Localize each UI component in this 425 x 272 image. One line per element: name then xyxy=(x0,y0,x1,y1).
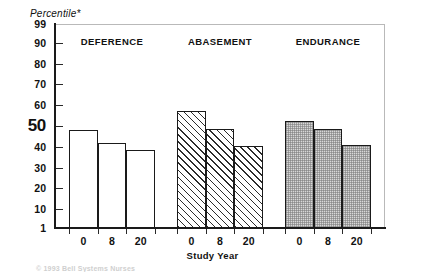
bar xyxy=(126,150,155,228)
x-axis-tick xyxy=(177,229,178,234)
x-axis-label: 8 xyxy=(207,236,233,247)
bar xyxy=(314,129,343,228)
bar xyxy=(69,130,98,228)
x-axis-label: 0 xyxy=(286,236,312,247)
x-axis-label: 20 xyxy=(344,236,370,247)
x-axis-tick xyxy=(314,229,315,234)
y-axis-label: 40 xyxy=(0,142,46,153)
x-axis-tick xyxy=(342,229,343,234)
y-axis-label: 50 xyxy=(0,117,46,134)
x-axis-tick xyxy=(234,229,235,234)
y-axis-label: 80 xyxy=(0,59,46,70)
bar xyxy=(285,121,314,228)
y-axis-label: 70 xyxy=(0,79,46,90)
x-axis-tick xyxy=(69,229,70,234)
x-axis-label: 0 xyxy=(178,236,204,247)
x-axis-tick xyxy=(206,229,207,234)
x-axis-title: Study Year xyxy=(0,250,425,261)
x-axis-label: 20 xyxy=(236,236,262,247)
x-axis-tick xyxy=(371,229,372,234)
x-axis-tick xyxy=(263,229,264,234)
x-axis-label: 20 xyxy=(128,236,154,247)
x-axis-label: 8 xyxy=(99,236,125,247)
y-axis-label: 10 xyxy=(0,204,46,215)
x-axis-tick xyxy=(126,229,127,234)
x-axis-tick xyxy=(285,229,286,234)
x-axis-tick xyxy=(155,229,156,234)
bar xyxy=(206,129,235,228)
y-axis-label: 90 xyxy=(0,38,46,49)
bar xyxy=(98,143,127,228)
x-axis-label: 8 xyxy=(315,236,341,247)
chart-footnote: © 1993 Bell Systems Nurses xyxy=(36,265,135,272)
y-axis-label: 20 xyxy=(0,183,46,194)
x-axis-label: 0 xyxy=(70,236,96,247)
bar xyxy=(342,145,371,228)
bars-layer xyxy=(55,24,385,228)
y-axis-label: 1 xyxy=(0,223,46,234)
bar xyxy=(234,146,263,228)
bar xyxy=(177,111,206,228)
y-axis-label: 99 xyxy=(0,19,46,30)
x-axis-tick xyxy=(98,229,99,234)
y-axis-label: 60 xyxy=(0,100,46,111)
bar-chart-figure: Percentile* 999080706050403020101 DEFERE… xyxy=(0,0,425,272)
y-axis-label: 30 xyxy=(0,163,46,174)
